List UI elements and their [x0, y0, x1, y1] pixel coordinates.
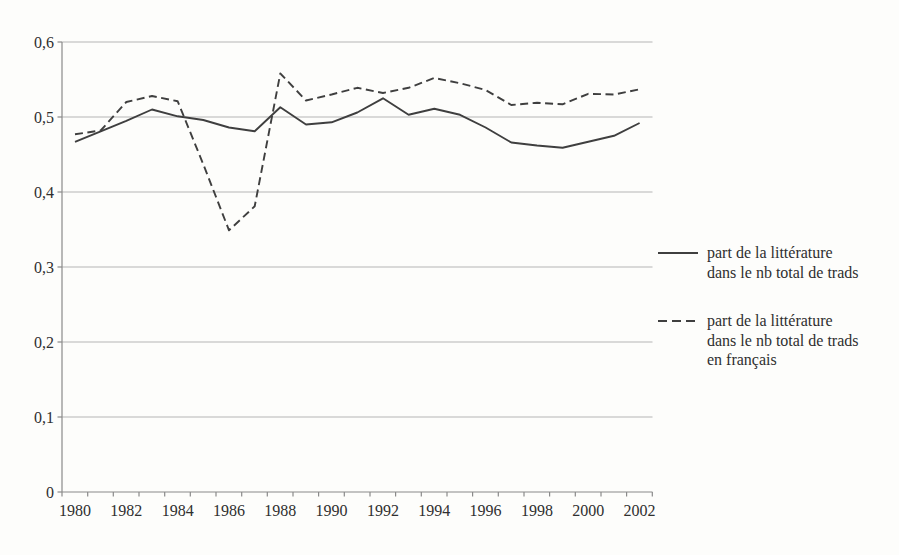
legend-label-line: part de la littérature [707, 311, 859, 331]
x-tick-label: 2002 [624, 502, 656, 519]
y-tick-label: 0 [46, 484, 54, 501]
legend-label-line: dans le nb total de trads [707, 263, 859, 283]
x-tick-label: 1996 [470, 502, 502, 519]
x-tick-label: 1994 [418, 502, 450, 519]
legend-entry-dashed: part de la littérature dans le nb total … [658, 311, 893, 370]
legend-label-line: dans le nb total de trads [707, 331, 859, 351]
x-tick-label: 1984 [162, 502, 194, 519]
y-tick-label: 0,4 [34, 184, 54, 201]
chart-page: 00,10,20,30,40,50,6198019821984198619881… [0, 0, 899, 555]
series-line-solid [75, 98, 640, 148]
x-tick-label: 1986 [213, 502, 245, 519]
x-tick-label: 1982 [110, 502, 142, 519]
x-tick-label: 1980 [59, 502, 91, 519]
x-tick-label: 1998 [521, 502, 553, 519]
y-tick-label: 0,2 [34, 334, 54, 351]
x-tick-label: 2000 [572, 502, 604, 519]
solid-line-icon [658, 252, 698, 254]
y-tick-label: 0,1 [34, 409, 54, 426]
y-tick-label: 0,6 [34, 34, 54, 51]
legend-label-solid: part de la littérature dans le nb total … [707, 243, 859, 282]
series-line-dashed [75, 74, 640, 231]
legend-label-dashed: part de la littérature dans le nb total … [707, 311, 859, 370]
chart-legend: part de la littérature dans le nb total … [658, 243, 893, 399]
dashed-line-icon [658, 320, 698, 322]
x-tick-label: 1992 [367, 502, 399, 519]
legend-entry-solid: part de la littérature dans le nb total … [658, 243, 893, 282]
x-tick-label: 1988 [264, 502, 296, 519]
y-tick-label: 0,5 [34, 109, 54, 126]
y-tick-label: 0,3 [34, 259, 54, 276]
x-tick-label: 1990 [316, 502, 348, 519]
legend-label-line: en français [707, 350, 859, 370]
legend-label-line: part de la littérature [707, 243, 859, 263]
